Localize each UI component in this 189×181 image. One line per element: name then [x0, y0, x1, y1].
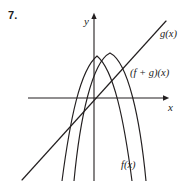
curve-label-f: f(x) [121, 160, 136, 171]
curve-label-f-plus-g: (f + g)(x) [130, 68, 169, 79]
figure-container: 7. y x g(x) (f + g)(x) f(x) [0, 0, 189, 181]
curve-label-g: g(x) [160, 29, 177, 40]
x-axis-label: x [168, 102, 173, 113]
y-axis-label: y [84, 16, 89, 27]
